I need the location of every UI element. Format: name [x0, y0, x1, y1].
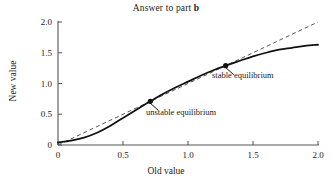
annotation-label-unstable-equilibrium: unstable equilibrium	[146, 107, 216, 117]
x-axis-title: Old value	[0, 166, 332, 176]
identity-line-dashed	[58, 22, 318, 145]
x-tick-label: 0.5	[117, 150, 128, 160]
y-tick-label: 1.5	[24, 48, 52, 58]
update-map-curve	[58, 45, 318, 143]
x-axis-ticks	[58, 141, 318, 145]
y-tick-label: 0	[24, 140, 52, 150]
y-tick-label: 0.5	[24, 109, 52, 119]
x-tick-label: 1.0	[182, 150, 193, 160]
x-tick-label: 1.5	[247, 150, 258, 160]
y-axis-title: New value	[8, 46, 18, 116]
chart-figure: Answer to part b unstable equilibrium st…	[0, 0, 332, 186]
y-axis-ticks	[58, 22, 62, 145]
y-tick-label: 2.0	[24, 17, 52, 27]
x-tick-label: 0	[56, 150, 61, 160]
x-tick-label: 2.0	[312, 150, 323, 160]
annotation-label-stable-equilibrium: stable equilibrium	[212, 70, 274, 80]
plot-canvas	[0, 0, 332, 186]
y-tick-label: 1.0	[24, 79, 52, 89]
